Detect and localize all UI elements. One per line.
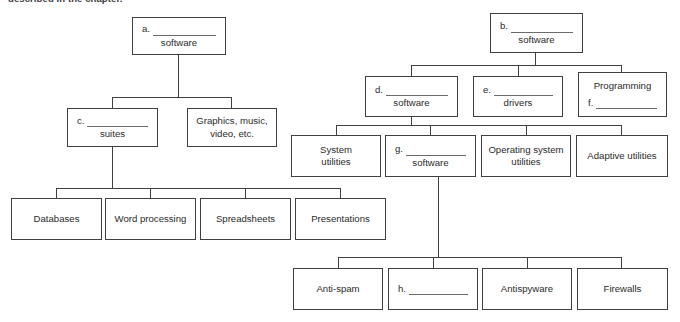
node-h-blank-row: h. [392, 283, 474, 295]
node-antispyware: Antispyware [482, 268, 572, 310]
node-e-drivers: e. drivers [473, 76, 563, 117]
node-d-blank-rule [386, 86, 448, 96]
node-g-software: g. software [385, 135, 476, 177]
node-databases: Databases [11, 198, 102, 240]
node-e-blank-row: e. [477, 84, 559, 96]
node-b-blank-rule [511, 23, 573, 33]
node-firewalls: Firewalls [577, 268, 668, 310]
connector-g-bar [338, 257, 622, 258]
node-c-blank-rule [87, 117, 148, 127]
node-e-suffix: drivers [477, 97, 559, 109]
connector-a-to-graphics [231, 97, 232, 108]
node-d-suffix: software [369, 97, 454, 109]
node-system-utilities-line2: utilities [321, 156, 350, 168]
node-f-blank-label: f. [588, 97, 593, 109]
node-graphics-line1: Graphics, music, [196, 115, 267, 127]
node-d-blank-row: d. [369, 84, 454, 96]
connector-c-stem [112, 147, 113, 189]
node-c-blank-row: c. [71, 115, 154, 127]
node-g-blank-row: g. [389, 143, 472, 155]
node-databases-label: Databases [34, 213, 80, 225]
connector-c-to-word-processing [150, 188, 151, 198]
connector-b-to-d [411, 65, 412, 76]
node-antispyware-label: Antispyware [501, 283, 553, 295]
connector-b-to-e [518, 65, 519, 76]
node-e-blank-label: e. [483, 84, 491, 96]
node-anti-spam: Anti-spam [293, 268, 383, 310]
node-f-blank-row: f. [582, 97, 663, 109]
node-c-suffix: suites [71, 128, 154, 140]
connector-a-stem [178, 55, 179, 98]
connector-g-to-antispyware [527, 257, 528, 268]
connector-d-to-os-utilities [526, 125, 527, 135]
node-spreadsheets: Spreadsheets [200, 198, 291, 240]
node-f-blank-rule [596, 99, 657, 109]
node-word-processing-label: Word processing [115, 213, 187, 225]
node-c-blank-label: c. [77, 115, 84, 127]
node-b-blank-row: b. [494, 20, 579, 32]
connector-g-to-firewalls [621, 257, 622, 268]
connector-g-to-h [433, 257, 434, 268]
node-h-blank-rule [409, 285, 468, 295]
node-presentations-label: Presentations [311, 213, 370, 225]
node-system-utilities: System utilities [291, 135, 381, 177]
page-caption: described in the chapter. [8, 0, 122, 4]
node-os-utilities-line1: Operating system [488, 144, 563, 156]
connector-c-to-presentations [340, 188, 341, 198]
node-a-suffix: software [136, 37, 222, 49]
node-anti-spam-label: Anti-spam [316, 283, 359, 295]
node-b-software: b. software [490, 13, 583, 53]
connector-d-to-g [430, 125, 431, 135]
node-graphics-line2: video, etc. [210, 128, 254, 140]
node-firewalls-label: Firewalls [604, 283, 642, 295]
node-h-blank: h. [388, 268, 478, 310]
connector-b-bar [411, 65, 622, 66]
connector-c-bar [56, 188, 341, 189]
node-d-software: d. software [365, 76, 458, 117]
node-g-suffix: software [389, 157, 472, 169]
node-system-utilities-line1: System [320, 144, 352, 156]
concept-map-diagram: described in the chapter. a. software c.… [0, 0, 680, 322]
node-a-software: a. software [132, 17, 226, 55]
connector-g-to-anti-spam [338, 257, 339, 268]
node-operating-system-utilities: Operating system utilities [481, 135, 571, 177]
node-a-blank-rule [153, 26, 216, 36]
node-presentations: Presentations [295, 198, 386, 240]
node-word-processing: Word processing [105, 198, 196, 240]
node-g-blank-rule [406, 146, 466, 156]
node-a-blank-label: a. [142, 23, 150, 35]
node-e-blank-rule [494, 86, 553, 96]
connector-a-to-c [112, 97, 113, 108]
node-h-blank-label: h. [398, 283, 406, 295]
connector-d-bar [336, 125, 622, 126]
node-adaptive-utilities: Adaptive utilities [576, 135, 668, 177]
connector-g-stem [438, 177, 439, 258]
node-graphics-music-video: Graphics, music, video, etc. [187, 108, 277, 147]
connector-c-to-databases [56, 188, 57, 198]
node-adaptive-utilities-label: Adaptive utilities [587, 150, 656, 162]
connector-a-bar [112, 97, 232, 98]
node-d-blank-label: d. [375, 84, 383, 96]
node-b-suffix: software [494, 34, 579, 46]
node-b-blank-label: b. [500, 20, 508, 32]
node-c-suites: c. suites [67, 108, 158, 147]
node-f-programming: Programming f. [578, 72, 667, 117]
node-a-blank-row: a. [136, 23, 222, 35]
node-g-blank-label: g. [395, 143, 403, 155]
connector-d-to-adaptive-utilities [621, 125, 622, 135]
connector-c-to-spreadsheets [245, 188, 246, 198]
node-os-utilities-line2: utilities [511, 156, 540, 168]
node-spreadsheets-label: Spreadsheets [216, 213, 275, 225]
connector-d-to-system-utilities [336, 125, 337, 135]
node-f-title: Programming [594, 80, 652, 92]
